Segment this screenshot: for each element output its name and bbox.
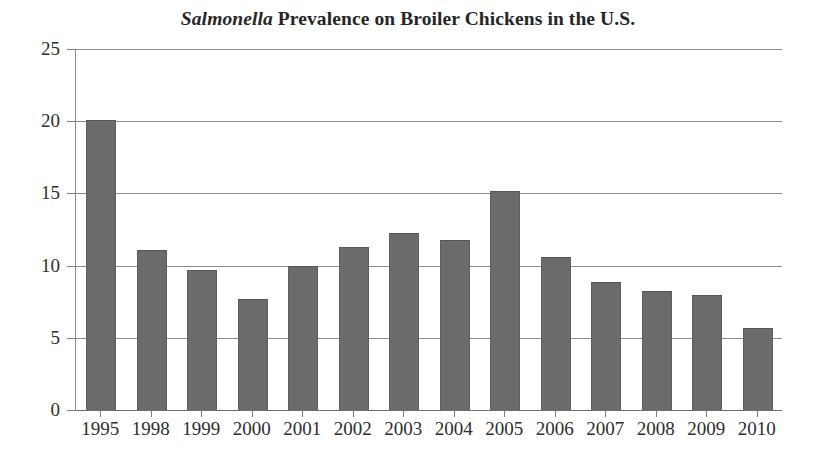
y-tick-0 [67,410,76,411]
y-tick-20 [67,121,76,122]
x-tick-2009 [706,410,707,417]
x-tick-2002 [353,410,354,417]
chart-title-emphasis: Salmonella [181,8,273,29]
x-tick-2001 [302,410,303,417]
y-tick-15 [67,193,76,194]
y-axis-tick-labels: 0510152025 [0,0,60,462]
bar-1995 [86,120,116,410]
bar-2009 [692,295,722,410]
x-tick-2000 [252,410,253,417]
x-axis-ticks [75,410,782,418]
bar-2007 [591,282,621,410]
bar-1999 [187,270,217,410]
bar-2004 [440,240,470,410]
y-axis-label-5: 5 [14,328,60,347]
x-tick-2007 [605,410,606,417]
x-tick-1999 [201,410,202,417]
bar-2000 [238,299,268,410]
x-tick-2004 [454,410,455,417]
x-tick-2006 [555,410,556,417]
bar-1998 [137,250,167,410]
x-tick-1995 [100,410,101,417]
y-axis-label-20: 20 [14,111,60,130]
bar-2001 [288,266,318,410]
x-tick-2010 [757,410,758,417]
chart-figure: Salmonella Prevalence on Broiler Chicken… [0,0,816,462]
y-axis-label-25: 25 [14,39,60,58]
chart-title-rest: Prevalence on Broiler Chickens in the U.… [273,8,635,29]
bar-2008 [642,291,672,410]
x-axis-tick-labels: 1995199819992000200120022003200420052006… [75,419,782,453]
x-tick-2003 [403,410,404,417]
x-tick-1998 [151,410,152,417]
bar-2005 [490,191,520,410]
bar-2010 [743,328,773,410]
bar-2002 [339,247,369,410]
bar-2003 [389,233,419,410]
y-axis-label-15: 15 [14,183,60,202]
chart-title: Salmonella Prevalence on Broiler Chicken… [0,8,816,30]
bar-series [75,49,782,410]
x-tick-2005 [504,410,505,417]
y-axis-label-10: 10 [14,256,60,275]
y-axis-label-0: 0 [14,400,60,419]
y-tick-10 [67,266,76,267]
bar-2006 [541,257,571,410]
x-axis-label-2010: 2010 [727,419,787,439]
x-tick-2008 [656,410,657,417]
y-tick-25 [67,49,76,50]
y-tick-5 [67,338,76,339]
